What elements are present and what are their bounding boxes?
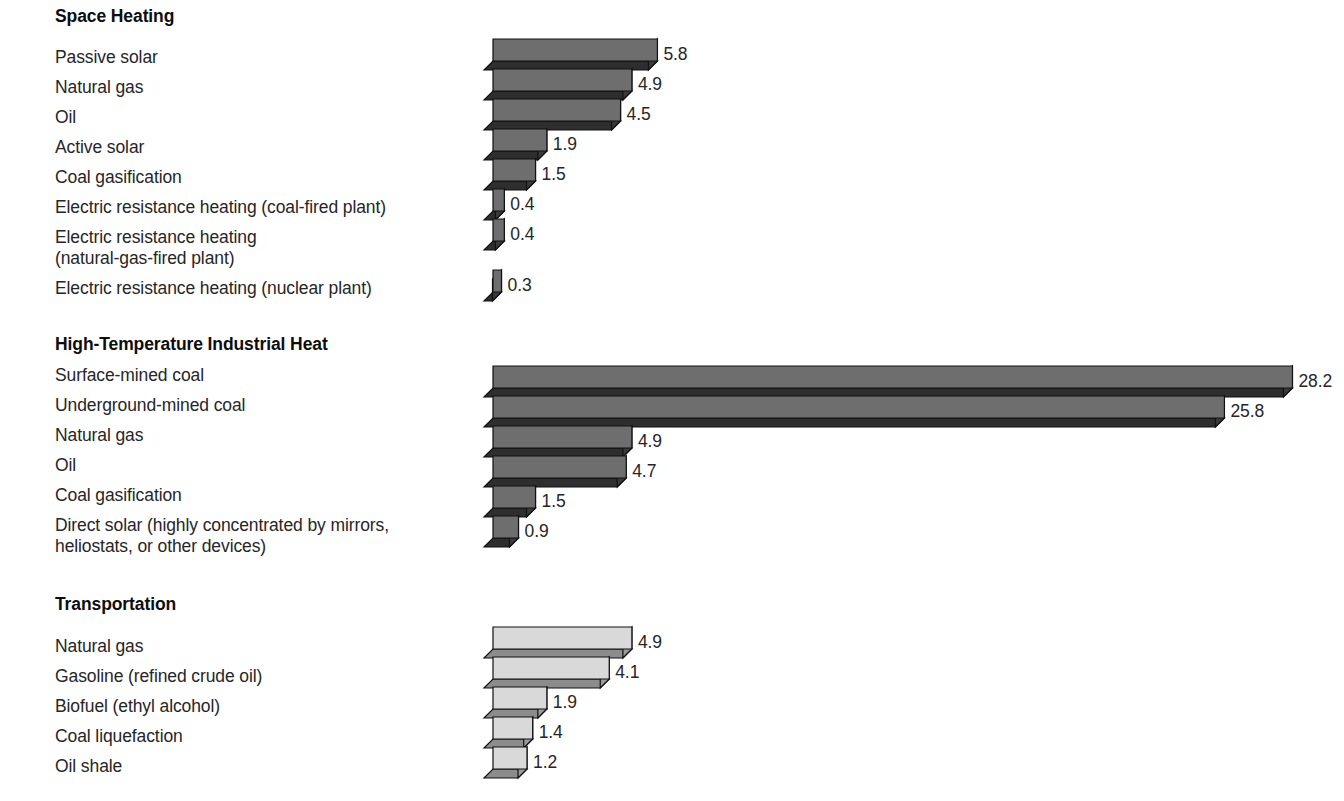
value-label: 1.2 (533, 752, 557, 773)
category-label: Natural gas (55, 636, 143, 657)
category-label: Electric resistance heating(natural-gas-… (55, 227, 257, 269)
category-label: Coal gasification (55, 485, 182, 506)
value-label: 1.4 (539, 722, 563, 743)
bar-4-9 (484, 627, 635, 661)
value-label: 1.5 (542, 491, 566, 512)
category-label: Natural gas (55, 77, 143, 98)
bar-1-4 (484, 717, 536, 751)
category-label: Coal gasification (55, 167, 182, 188)
bar-0-4 (484, 219, 507, 253)
value-label: 4.1 (615, 662, 639, 683)
value-label: 4.9 (638, 74, 662, 95)
category-label: Coal liquefaction (55, 726, 183, 747)
bar-1-2 (484, 747, 530, 781)
group-title-transportation: Transportation (55, 594, 176, 615)
bar-5-8 (484, 39, 660, 73)
category-label: Oil shale (55, 756, 122, 777)
category-label: Oil (55, 455, 76, 476)
value-label: 4.9 (638, 431, 662, 452)
category-label: Biofuel (ethyl alcohol) (55, 696, 220, 717)
bar-25-8 (484, 396, 1227, 430)
bar-4-9 (484, 69, 635, 103)
value-label: 0.4 (510, 224, 534, 245)
category-label: Oil (55, 107, 76, 128)
category-label: Underground-mined coal (55, 395, 245, 416)
bar-4-1 (484, 657, 612, 691)
category-label: Direct solar (highly concentrated by mir… (55, 515, 389, 557)
value-label: 5.8 (663, 44, 687, 65)
bar-0-3 (484, 270, 505, 304)
bar-1-5 (484, 159, 539, 193)
value-label: 4.5 (627, 104, 651, 125)
value-label: 0.3 (508, 275, 532, 296)
value-label: 0.4 (510, 194, 534, 215)
group-title-space-heating: Space Heating (55, 6, 174, 27)
category-label: Passive solar (55, 47, 158, 68)
value-label: 4.7 (632, 461, 656, 482)
value-label: 28.2 (1298, 371, 1332, 392)
value-label: 1.9 (553, 692, 577, 713)
group-title-high-temperature-industrial-heat: High-Temperature Industrial Heat (55, 334, 328, 355)
bar-4-5 (484, 99, 624, 133)
value-label: 1.9 (553, 134, 577, 155)
bar-1-9 (484, 687, 550, 721)
value-label: 25.8 (1230, 401, 1264, 422)
bar-0-4 (484, 189, 507, 223)
category-label: Electric resistance heating (coal-fired … (55, 197, 386, 218)
bar-1-5 (484, 486, 539, 520)
bar-4-7 (484, 456, 629, 490)
bar-1-9 (484, 129, 550, 163)
bar-28-2 (484, 366, 1295, 400)
bar-4-9 (484, 426, 635, 460)
category-label: Active solar (55, 137, 144, 158)
category-label: Electric resistance heating (nuclear pla… (55, 278, 372, 299)
category-label: Gasoline (refined crude oil) (55, 666, 262, 687)
value-label: 4.9 (638, 632, 662, 653)
value-label: 1.5 (542, 164, 566, 185)
bar-chart-energy-net-useful-energy: Space HeatingPassive solar5.8Natural gas… (0, 0, 1344, 801)
category-label: Surface-mined coal (55, 365, 204, 386)
category-label: Natural gas (55, 425, 143, 446)
bar-0-9 (484, 516, 522, 550)
value-label: 0.9 (525, 521, 549, 542)
